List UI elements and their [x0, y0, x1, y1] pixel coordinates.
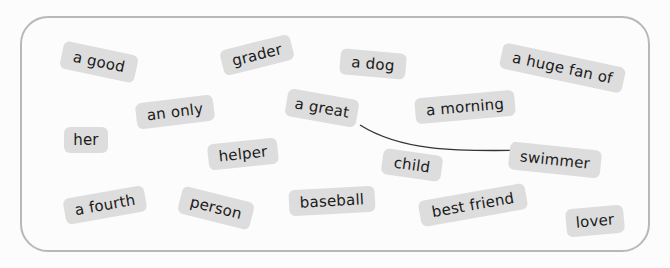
word-tile-her[interactable]: her	[64, 127, 108, 153]
word-tile-lover[interactable]: lover	[565, 205, 625, 238]
word-tile-baseball[interactable]: baseball	[288, 186, 375, 216]
